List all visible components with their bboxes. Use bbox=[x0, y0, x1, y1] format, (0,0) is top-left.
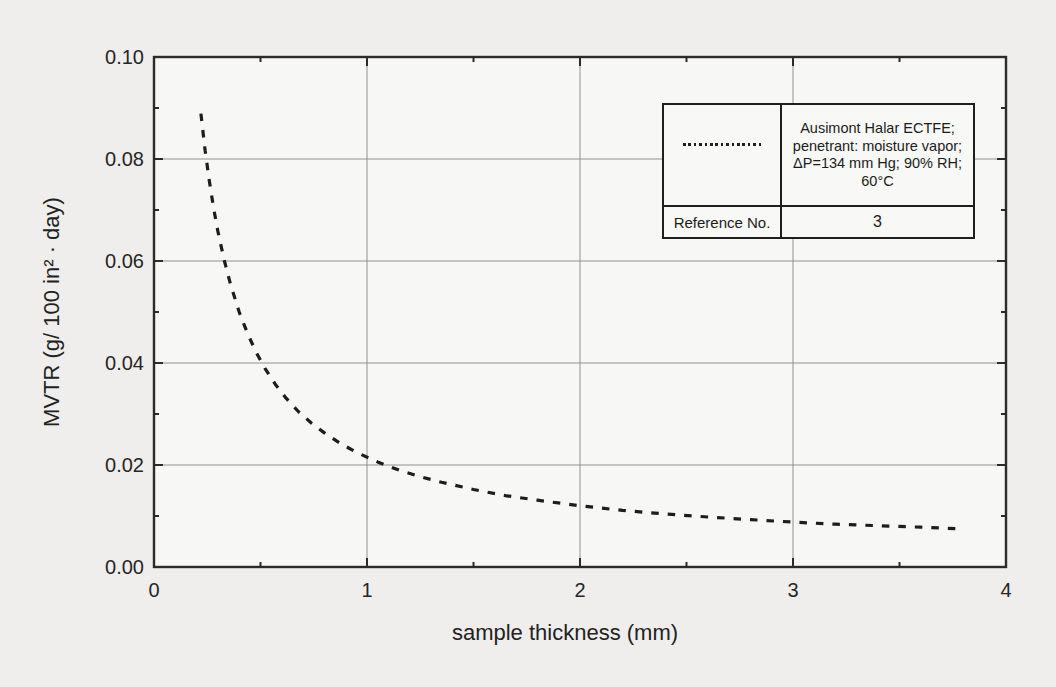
legend-reference-value: 3 bbox=[873, 213, 882, 231]
legend-reference-label: Reference No. bbox=[674, 214, 771, 231]
legend-reference-row: Reference No. 3 bbox=[664, 207, 973, 237]
y-tick-label: 0.02 bbox=[74, 454, 144, 476]
x-tick-label: 1 bbox=[337, 579, 397, 601]
legend-line-sample-cell bbox=[664, 105, 782, 205]
dashed-line-sample-icon bbox=[683, 143, 761, 146]
legend-reference-label-cell: Reference No. bbox=[664, 207, 782, 237]
y-tick-label: 0.10 bbox=[74, 46, 144, 68]
legend-desc-line-2: penetrant: moisture vapor; bbox=[793, 138, 962, 156]
legend-series-description: Ausimont Halar ECTFE; penetrant: moistur… bbox=[782, 105, 973, 205]
legend-desc-line-4: 60°C bbox=[861, 173, 893, 191]
x-tick-label: 0 bbox=[124, 579, 184, 601]
y-tick-label: 0.00 bbox=[74, 556, 144, 578]
legend-table: Ausimont Halar ECTFE; penetrant: moistur… bbox=[662, 103, 975, 239]
x-tick-label: 3 bbox=[763, 579, 823, 601]
chart-page: 012340.000.020.040.060.080.10 sample thi… bbox=[0, 0, 1056, 687]
y-tick-label: 0.08 bbox=[74, 148, 144, 170]
x-tick-label: 2 bbox=[550, 579, 610, 601]
legend-desc-line-3: ΔP=134 mm Hg; 90% RH; bbox=[793, 155, 962, 173]
x-tick-label: 4 bbox=[976, 579, 1036, 601]
legend-desc-line-1: Ausimont Halar ECTFE; bbox=[800, 120, 955, 138]
y-tick-label: 0.04 bbox=[74, 352, 144, 374]
legend-series-row: Ausimont Halar ECTFE; penetrant: moistur… bbox=[664, 105, 973, 207]
legend-reference-value-cell: 3 bbox=[782, 207, 973, 237]
y-axis-title: MVTR (g/ 100 in² · day) bbox=[39, 197, 65, 427]
y-tick-label: 0.06 bbox=[74, 250, 144, 272]
x-axis-title: sample thickness (mm) bbox=[340, 620, 790, 646]
